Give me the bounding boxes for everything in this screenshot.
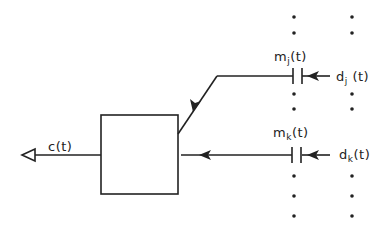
output-label-c: c(t)	[48, 140, 72, 153]
ellipsis-dot	[350, 194, 354, 198]
diagram-graphics	[0, 0, 387, 227]
upper-m-label: mj(t)	[274, 50, 307, 66]
lower-d-arg: (t)	[353, 147, 370, 162]
upper-m-base: m	[274, 49, 287, 64]
output-open-arrow-icon	[22, 149, 35, 161]
ellipsis-dot	[350, 15, 354, 19]
upper-m-arg: (t)	[290, 49, 307, 64]
system-block	[101, 115, 178, 194]
output-label-arg: (t)	[56, 139, 73, 154]
upper-d-base: d	[336, 69, 345, 84]
ellipsis-dot	[350, 31, 354, 35]
ellipsis-dot	[292, 194, 296, 198]
ellipsis-dot	[292, 15, 296, 19]
block-diagram: c(t) mj(t) dj (t) mk(t) dk(t)	[0, 0, 387, 227]
lower-m-arg: (t)	[292, 125, 309, 140]
ellipsis-dot	[292, 214, 296, 218]
ellipsis-dot	[350, 107, 354, 111]
upper-d-arg: (t)	[348, 69, 369, 84]
ellipsis-dot	[292, 174, 296, 178]
output-label-base: c	[48, 139, 56, 154]
lower-m-base: m	[273, 125, 286, 140]
lower-m-label: mk(t)	[273, 126, 309, 142]
ellipsis-dot	[350, 174, 354, 178]
ellipsis-dot	[292, 92, 296, 96]
lower-d-label: dk(t)	[339, 148, 370, 164]
ellipsis-dot	[292, 107, 296, 111]
lower-d-base: d	[339, 147, 348, 162]
ellipsis-dot	[350, 214, 354, 218]
ellipsis-dot	[350, 92, 354, 96]
upper-d-label: dj (t)	[336, 70, 369, 86]
ellipsis-dot	[292, 31, 296, 35]
